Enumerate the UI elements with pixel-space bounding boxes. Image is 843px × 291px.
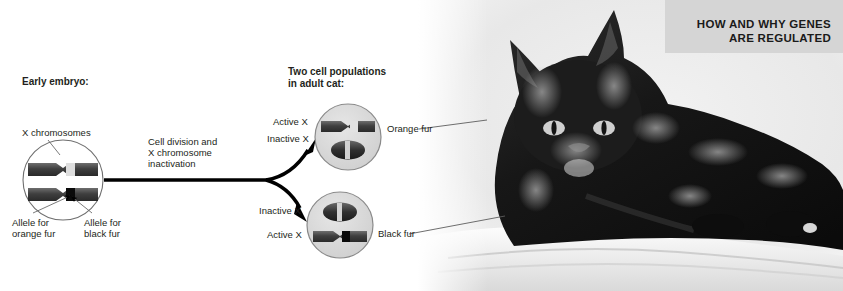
orange-cell-bottom-label: Inactive X (267, 133, 309, 144)
orange-cell-top-label: Active X (273, 116, 308, 127)
orange-fur-outcome-label: Orange fur (387, 123, 432, 134)
early-embryo-cell (23, 140, 103, 220)
allele-band-orange (66, 163, 75, 176)
adult-cat-heading: Two cell populations in adult cat: (288, 66, 386, 90)
inactive-x-barr-body-black-cell (323, 203, 357, 222)
black-fur-outcome-label: Black fur (378, 228, 415, 239)
black-cell-bottom-label: Active X (267, 229, 302, 240)
allele-band-black (66, 188, 75, 201)
black-cell-top-label: Inactive X (259, 205, 301, 216)
inactive-x-barr-body-orange-cell (331, 141, 365, 160)
early-embryo-heading: Early embryo: (22, 76, 89, 88)
x-inactivation-figure: Early embryo: X chromosomes Allele for o… (0, 0, 843, 291)
x-chromosomes-label: X chromosomes (22, 127, 91, 138)
section-title-banner: HOW AND WHY GENES ARE REGULATED (665, 0, 843, 53)
section-title-text: HOW AND WHY GENES ARE REGULATED (697, 17, 831, 46)
adult-cell-orange (315, 104, 487, 170)
leader-black-fur (409, 216, 505, 234)
adult-cell-black (307, 192, 505, 258)
allele-orange-label: Allele for orange fur (12, 217, 55, 239)
process-arrow-label: Cell division and X chromosome inactivat… (148, 136, 217, 170)
allele-black-label: Allele for black fur (84, 217, 121, 239)
